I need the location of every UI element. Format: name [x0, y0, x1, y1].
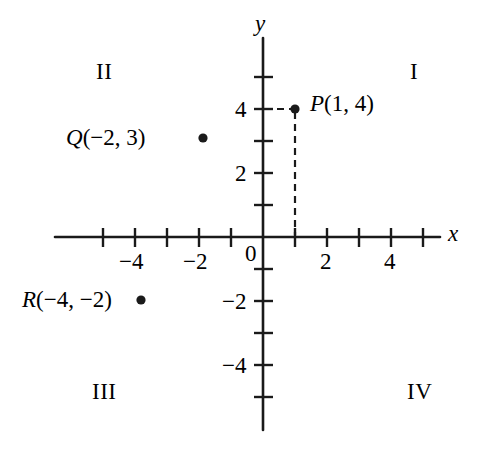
y-tick-label-minus4: −4 — [222, 354, 246, 377]
quadrant-label-2: II — [96, 60, 112, 83]
point-label-r-coords: (−4, −2) — [36, 287, 112, 312]
y-axis-label: y — [255, 12, 265, 35]
x-axis-label: x — [448, 222, 458, 245]
y-tick-label-2: 2 — [235, 162, 247, 185]
point-label-q-coords: (−2, 3) — [83, 125, 146, 150]
point-label-p-coords: (1, 4) — [324, 91, 374, 116]
x-tick-label-2: 2 — [320, 250, 332, 273]
quadrant-label-1: I — [410, 60, 418, 83]
point-label-r: R(−4, −2) — [22, 288, 112, 311]
point-label-q-name: Q — [66, 125, 83, 150]
origin-label: 0 — [245, 242, 257, 265]
quadrant-label-3: III — [92, 380, 116, 403]
x-tick-label-minus4: −4 — [119, 250, 143, 273]
coordinate-plane-figure: x y 0 −4 −2 2 4 4 2 −2 −4 I II III IV P(… — [0, 0, 489, 452]
point-dot-r — [136, 295, 145, 304]
x-tick-label-4: 4 — [384, 250, 396, 273]
point-label-p: P(1, 4) — [310, 92, 374, 115]
point-dot-q — [198, 133, 207, 142]
x-tick-label-minus2: −2 — [183, 250, 207, 273]
y-tick-label-4: 4 — [235, 98, 247, 121]
point-label-r-name: R — [22, 287, 36, 312]
point-label-p-name: P — [310, 91, 324, 116]
y-tick-label-minus2: −2 — [222, 290, 246, 313]
quadrant-label-4: IV — [407, 380, 432, 403]
point-label-q: Q(−2, 3) — [66, 126, 145, 149]
point-dot-p — [290, 104, 299, 113]
